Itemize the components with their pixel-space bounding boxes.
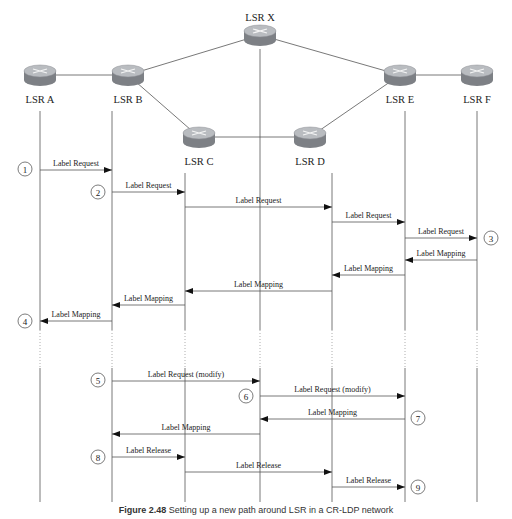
step-marker-9: 9 bbox=[411, 480, 425, 494]
step-marker-8: 8 bbox=[91, 450, 105, 464]
svg-text:1: 1 bbox=[23, 165, 28, 175]
diagram-canvas: LSR ALSR BLSR XLSR CLSR DLSR ELSR F Labe… bbox=[0, 0, 512, 519]
message-6: Label Mapping bbox=[405, 249, 477, 260]
router-C: LSR C bbox=[183, 127, 215, 167]
router-icon bbox=[112, 65, 144, 86]
svg-text:5: 5 bbox=[96, 376, 101, 386]
step-marker-7: 7 bbox=[411, 411, 425, 425]
message-label: Label Mapping bbox=[416, 249, 465, 258]
router-icon bbox=[294, 127, 326, 148]
router-label-E: LSR E bbox=[386, 94, 414, 105]
caption-text: Setting up a new path around LSR in a CR… bbox=[169, 505, 393, 515]
message-14: Label Mapping bbox=[112, 423, 260, 434]
link-B-X bbox=[128, 35, 260, 75]
svg-text:4: 4 bbox=[23, 317, 28, 327]
router-A: LSR A bbox=[24, 65, 56, 105]
message-label: Label Mapping bbox=[234, 280, 283, 289]
message-12: Label Request (modify) bbox=[260, 385, 405, 396]
step-markers: 123456789 bbox=[18, 162, 498, 494]
message-17: Label Release bbox=[332, 476, 405, 487]
router-D: LSR D bbox=[294, 127, 326, 167]
router-icon bbox=[183, 127, 215, 148]
message-label: Label Mapping bbox=[308, 408, 357, 417]
message-3: Label Request bbox=[185, 196, 332, 207]
message-label: Label Request bbox=[126, 181, 173, 190]
svg-text:9: 9 bbox=[416, 483, 421, 493]
step-marker-2: 2 bbox=[91, 185, 105, 199]
message-label: Label Request bbox=[236, 196, 283, 205]
svg-text:3: 3 bbox=[489, 234, 494, 244]
step-marker-5: 5 bbox=[91, 373, 105, 387]
link-D-E bbox=[310, 75, 400, 137]
svg-text:7: 7 bbox=[416, 414, 421, 424]
message-label: Label Mapping bbox=[51, 310, 100, 319]
message-4: Label Request bbox=[332, 211, 405, 222]
step-marker-6: 6 bbox=[239, 389, 253, 403]
svg-text:6: 6 bbox=[244, 392, 249, 402]
router-label-X: LSR X bbox=[245, 12, 275, 23]
step-marker-1: 1 bbox=[18, 162, 32, 176]
router-X: LSR X bbox=[244, 12, 276, 46]
router-label-F: LSR F bbox=[463, 94, 491, 105]
message-8: Label Mapping bbox=[185, 280, 332, 291]
router-label-D: LSR D bbox=[295, 156, 325, 167]
message-1: Label Request bbox=[40, 159, 112, 170]
message-10: Label Mapping bbox=[40, 310, 112, 321]
sequence-diagram: LSR ALSR BLSR XLSR CLSR DLSR ELSR F Labe… bbox=[0, 0, 512, 519]
routers: LSR ALSR BLSR XLSR CLSR DLSR ELSR F bbox=[24, 12, 493, 167]
message-label: Label Request bbox=[418, 227, 465, 236]
message-16: Label Release bbox=[185, 461, 332, 472]
router-label-B: LSR B bbox=[114, 94, 143, 105]
message-label: Label Mapping bbox=[161, 423, 210, 432]
message-5: Label Request bbox=[405, 227, 477, 238]
network-links bbox=[40, 35, 477, 137]
messages: Label RequestLabel RequestLabel RequestL… bbox=[40, 159, 477, 487]
message-7: Label Mapping bbox=[332, 264, 405, 275]
router-label-A: LSR A bbox=[26, 94, 55, 105]
figure-caption: Figure 2.48 Setting up a new path around… bbox=[0, 505, 512, 515]
step-marker-3: 3 bbox=[484, 231, 498, 245]
router-label-C: LSR C bbox=[185, 156, 214, 167]
message-label: Label Release bbox=[346, 476, 392, 485]
message-9: Label Mapping bbox=[112, 294, 185, 305]
message-label: Label Request (modify) bbox=[294, 385, 371, 394]
message-13: Label Mapping bbox=[260, 408, 405, 419]
link-X-E bbox=[260, 35, 400, 75]
message-label: Label Mapping bbox=[344, 264, 393, 273]
message-label: Label Request (modify) bbox=[148, 370, 225, 379]
router-icon bbox=[384, 65, 416, 86]
router-icon bbox=[461, 65, 493, 86]
message-label: Label Request bbox=[53, 159, 100, 168]
message-label: Label Release bbox=[126, 446, 172, 455]
caption-label: Figure 2.48 bbox=[119, 505, 167, 515]
svg-text:8: 8 bbox=[96, 453, 101, 463]
svg-text:2: 2 bbox=[96, 188, 101, 198]
router-E: LSR E bbox=[384, 65, 416, 105]
message-label: Label Mapping bbox=[124, 294, 173, 303]
step-marker-4: 4 bbox=[18, 314, 32, 328]
message-label: Label Release bbox=[236, 461, 282, 470]
message-15: Label Release bbox=[112, 446, 185, 457]
router-icon bbox=[24, 65, 56, 86]
message-2: Label Request bbox=[112, 181, 185, 192]
message-label: Label Request bbox=[346, 211, 393, 220]
message-11: Label Request (modify) bbox=[112, 370, 260, 381]
router-icon bbox=[244, 25, 276, 46]
router-F: LSR F bbox=[461, 65, 493, 105]
